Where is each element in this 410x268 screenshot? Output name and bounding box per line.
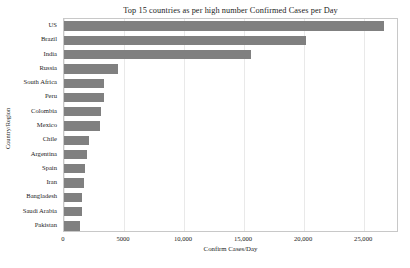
bar-row[interactable] bbox=[64, 147, 87, 161]
y-tick-saudi-arabia: Saudi Arabia bbox=[23, 207, 57, 215]
bar-row[interactable] bbox=[64, 62, 118, 76]
y-tick-us: US bbox=[49, 21, 57, 29]
bars-layer bbox=[64, 19, 397, 231]
bar-chile[interactable] bbox=[64, 136, 89, 145]
y-tick-mexico: Mexico bbox=[37, 121, 57, 129]
bar-argentina[interactable] bbox=[64, 150, 87, 159]
bar-row[interactable] bbox=[64, 204, 82, 218]
y-tick-russia: Russia bbox=[39, 64, 57, 72]
y-tick-argentina: Argentina bbox=[31, 150, 57, 158]
bar-bangladesh[interactable] bbox=[64, 193, 82, 202]
bar-row[interactable] bbox=[64, 162, 85, 176]
bar-row[interactable] bbox=[64, 33, 306, 47]
y-tick-spain: Spain bbox=[42, 164, 57, 172]
bar-brazil[interactable] bbox=[64, 36, 306, 45]
bar-row[interactable] bbox=[64, 190, 82, 204]
bar-peru[interactable] bbox=[64, 93, 104, 102]
bar-iran[interactable] bbox=[64, 178, 84, 187]
x-axis-tick-labels: 0500010,00015,00020,00025,000 bbox=[63, 234, 398, 244]
chart-figure: Top 15 countries as per high number Conf… bbox=[0, 0, 410, 268]
bar-colombia[interactable] bbox=[64, 107, 101, 116]
bar-row[interactable] bbox=[64, 48, 251, 62]
bar-row[interactable] bbox=[64, 176, 84, 190]
x-axis-title: Confirm Cases/Day bbox=[63, 245, 398, 252]
bar-row[interactable] bbox=[64, 90, 104, 104]
x-tick-15000: 15,000 bbox=[234, 234, 252, 243]
bar-india[interactable] bbox=[64, 50, 251, 59]
x-tick-20000: 20,000 bbox=[294, 234, 312, 243]
y-tick-south-africa: South Africa bbox=[23, 78, 57, 86]
y-tick-colombia: Colombia bbox=[31, 107, 57, 115]
bar-row[interactable] bbox=[64, 105, 101, 119]
y-axis-tick-labels: USBrazilIndiaRussiaSouth AfricaPeruColom… bbox=[0, 18, 60, 232]
x-tick-5000: 5000 bbox=[116, 234, 129, 243]
x-tick-10000: 10,000 bbox=[174, 234, 192, 243]
x-tick-25000: 25,000 bbox=[354, 234, 372, 243]
bar-pakistan[interactable] bbox=[64, 221, 80, 230]
bar-saudi-arabia[interactable] bbox=[64, 207, 82, 216]
y-tick-chile: Chile bbox=[43, 135, 57, 143]
bar-us[interactable] bbox=[64, 21, 384, 30]
y-tick-peru: Peru bbox=[45, 92, 57, 100]
bar-row[interactable] bbox=[64, 76, 104, 90]
plot-area bbox=[63, 18, 398, 232]
bar-south-africa[interactable] bbox=[64, 79, 104, 88]
y-tick-brazil: Brazil bbox=[41, 35, 57, 43]
bar-row[interactable] bbox=[64, 19, 384, 33]
y-tick-iran: Iran bbox=[46, 178, 57, 186]
chart-title: Top 15 countries as per high number Conf… bbox=[63, 6, 398, 16]
x-tick-0: 0 bbox=[61, 234, 64, 243]
y-tick-india: India bbox=[43, 50, 57, 58]
bar-russia[interactable] bbox=[64, 64, 118, 73]
bar-row[interactable] bbox=[64, 133, 89, 147]
bar-spain[interactable] bbox=[64, 164, 85, 173]
bar-row[interactable] bbox=[64, 119, 100, 133]
bar-mexico[interactable] bbox=[64, 121, 100, 130]
bar-row[interactable] bbox=[64, 219, 80, 233]
y-tick-pakistan: Pakistan bbox=[35, 221, 57, 229]
y-tick-bangladesh: Bangladesh bbox=[26, 192, 57, 200]
